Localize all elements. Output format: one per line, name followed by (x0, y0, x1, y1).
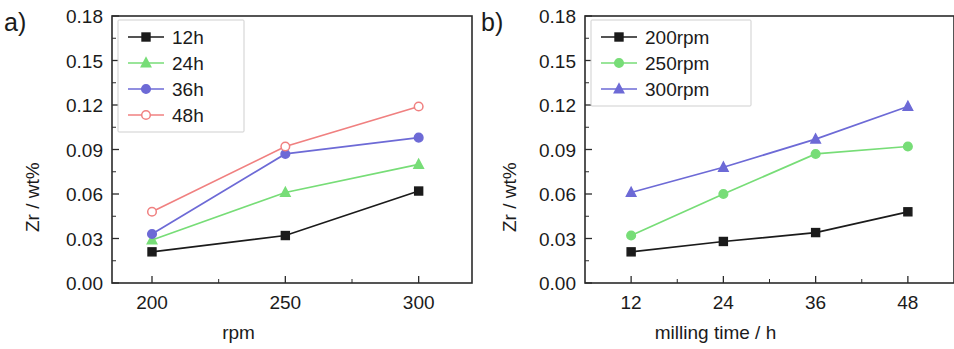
y-tick-label: 0.06 (66, 184, 103, 205)
x-tick-label: 200 (136, 292, 168, 313)
data-point-12h (148, 248, 156, 256)
y-tick-label: 0.15 (539, 51, 576, 72)
series-line-250rpm (631, 147, 908, 236)
x-tick-label: 24 (713, 292, 735, 313)
data-point-48h (148, 208, 157, 217)
y-tick-label: 0.09 (66, 140, 103, 161)
y-tick-label: 0.00 (66, 273, 103, 294)
x-tick-label: 48 (897, 292, 918, 313)
panel-a-plot: 0.000.030.060.090.120.150.1820025030012h… (0, 0, 477, 349)
data-point-200rpm (812, 229, 820, 237)
y-tick-label: 0.03 (539, 229, 576, 250)
data-point-36h (414, 133, 423, 142)
data-point-12h (415, 187, 423, 195)
series-line-12h (152, 191, 419, 252)
y-tick-label: 0.12 (539, 95, 576, 116)
figure-two-panel-line-charts: a) Zr / wt% rpm 0.000.030.060.090.120.15… (0, 0, 954, 349)
data-point-200rpm (627, 248, 635, 256)
legend-marker-12h (142, 33, 150, 41)
y-tick-label: 0.15 (66, 51, 103, 72)
panel-a: a) Zr / wt% rpm 0.000.030.060.090.120.15… (0, 0, 477, 349)
series-line-24h (152, 164, 419, 240)
legend-label-12h: 12h (172, 27, 204, 48)
y-tick-label: 0.03 (66, 229, 103, 250)
data-point-48h (414, 102, 423, 111)
x-tick-label: 250 (269, 292, 301, 313)
data-point-12h (281, 232, 289, 240)
legend-label-36h: 36h (172, 79, 204, 100)
data-point-48h (281, 142, 290, 151)
legend-label-300rpm: 300rpm (645, 79, 709, 100)
data-point-250rpm (811, 150, 820, 159)
y-tick-label: 0.12 (66, 95, 103, 116)
legend-label-250rpm: 250rpm (645, 53, 709, 74)
data-point-36h (148, 230, 157, 239)
legend-label-48h: 48h (172, 105, 204, 126)
legend-label-200rpm: 200rpm (645, 27, 709, 48)
y-tick-label: 0.18 (66, 6, 103, 27)
data-point-200rpm (719, 237, 727, 245)
legend-label-24h: 24h (172, 53, 204, 74)
legend-marker-250rpm (615, 59, 624, 68)
series-line-200rpm (631, 212, 908, 252)
data-point-300rpm (903, 101, 913, 110)
x-tick-label: 300 (403, 292, 435, 313)
data-point-250rpm (719, 190, 728, 199)
legend-marker-48h (142, 111, 151, 120)
panel-b-plot: 0.000.030.060.090.120.150.1812243648200r… (477, 0, 954, 349)
y-tick-label: 0.06 (539, 184, 576, 205)
y-tick-label: 0.18 (539, 6, 576, 27)
legend-marker-36h (142, 85, 151, 94)
data-point-200rpm (904, 208, 912, 216)
legend-marker-200rpm (615, 33, 623, 41)
x-tick-label: 36 (805, 292, 826, 313)
y-tick-label: 0.00 (539, 273, 576, 294)
data-point-250rpm (627, 231, 636, 240)
y-tick-label: 0.09 (539, 140, 576, 161)
data-point-250rpm (904, 142, 913, 151)
data-point-24h (414, 159, 424, 168)
panel-b: b) Zr / wt% milling time / h 0.000.030.0… (477, 0, 954, 349)
x-tick-label: 12 (621, 292, 642, 313)
